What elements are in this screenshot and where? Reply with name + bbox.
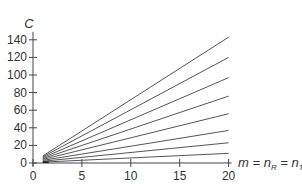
- series-line-1: [43, 37, 229, 156]
- x-tick-label: 20: [222, 169, 236, 183]
- origin-cluster: [43, 161, 49, 163]
- x-tick-label: 5: [79, 169, 86, 183]
- x-tick-label: 15: [173, 169, 187, 183]
- y-tick-label: 0: [20, 156, 27, 170]
- y-tick-label: 80: [14, 86, 28, 100]
- series-line-5: [43, 114, 229, 160]
- x-axis-title-main: m = n: [238, 155, 271, 170]
- y-tick-label: 60: [14, 103, 28, 117]
- series-lines: [43, 37, 229, 163]
- y-tick-label: 120: [7, 50, 27, 64]
- line-chart: 05101520020406080100120140 C m = nR = nT: [0, 0, 302, 189]
- y-tick-label: 20: [14, 138, 28, 152]
- x-axis-title-mid: = n: [277, 155, 299, 170]
- x-tick-label: 10: [124, 169, 138, 183]
- x-tick-label: 0: [30, 169, 37, 183]
- x-axis-title: m = nR = nT: [238, 155, 302, 172]
- y-axis-title: C: [24, 16, 34, 31]
- y-tick-label: 40: [14, 121, 28, 135]
- series-line-2: [43, 57, 229, 156]
- series-line-8: [43, 153, 229, 162]
- series-line-4: [43, 96, 229, 158]
- x-axis-title-sub-t: T: [299, 163, 302, 172]
- y-tick-label: 100: [7, 68, 27, 82]
- y-tick-label: 140: [7, 33, 27, 47]
